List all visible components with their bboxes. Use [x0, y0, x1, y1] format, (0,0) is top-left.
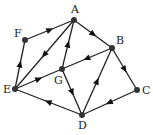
node-label-f: F [14, 27, 22, 40]
node-f [22, 37, 28, 43]
arrowhead-icon [82, 55, 91, 63]
node-label-e: E [3, 83, 11, 96]
arrowhead-icon [120, 65, 129, 74]
arrowhead-icon [105, 99, 114, 107]
arrowhead-icon [46, 26, 55, 34]
node-e [12, 86, 18, 92]
arrowhead-icon [35, 75, 44, 83]
arrowhead-icon [44, 98, 53, 106]
node-d [79, 112, 85, 118]
node-g [59, 66, 65, 72]
node-label-g: G [54, 74, 63, 87]
node-label-d: D [78, 119, 87, 132]
node-c [134, 87, 140, 93]
node-label-c: C [142, 84, 150, 97]
arrowhead-icon [68, 88, 76, 97]
node-a [71, 17, 77, 23]
node-label-a: A [70, 3, 80, 16]
arrowhead-icon [93, 77, 101, 86]
node-label-b: B [116, 34, 124, 47]
arrowhead-icon [64, 40, 71, 48]
directed-graph: ABCDEFG [0, 0, 153, 135]
node-b [109, 45, 115, 51]
